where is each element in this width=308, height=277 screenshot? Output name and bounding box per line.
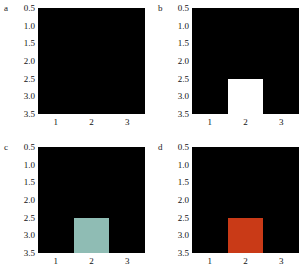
panel-letter-a: a: [4, 4, 8, 13]
panel-letter-b: b: [158, 4, 163, 13]
ytick-label: 3.5: [24, 110, 35, 119]
panel-d: d 0.51.01.52.02.53.03.5123: [154, 139, 308, 277]
ytick-label: 1.0: [178, 21, 189, 30]
xtick-label: 2: [89, 257, 94, 266]
ytick-label: 1.5: [24, 178, 35, 187]
ytick-label: 3.0: [178, 92, 189, 101]
ytick-label: 2.5: [24, 74, 35, 83]
panel-letter-d: d: [158, 143, 163, 152]
plot-area-d: [192, 147, 299, 253]
panel-a: a 0.51.01.52.02.53.03.5123: [0, 0, 154, 138]
ytick-label: 3.0: [24, 231, 35, 240]
xtick-label: 1: [208, 257, 213, 266]
highlight-cell-b: [228, 79, 264, 114]
ytick-label: 1.5: [178, 39, 189, 48]
panel-c: c 0.51.01.52.02.53.03.5123: [0, 139, 154, 277]
xtick-label: 1: [208, 118, 213, 127]
panel-b: b 0.51.01.52.02.53.03.5123: [154, 0, 308, 138]
xtick-label: 2: [243, 257, 248, 266]
ytick-label: 1.5: [178, 178, 189, 187]
ytick-label: 3.0: [24, 92, 35, 101]
ytick-label: 2.0: [24, 196, 35, 205]
xtick-label: 2: [89, 118, 94, 127]
xtick-label: 2: [243, 118, 248, 127]
axes-d: 0.51.01.52.02.53.03.5123: [192, 147, 299, 253]
plot-area-a: [38, 8, 145, 114]
ytick-label: 2.5: [24, 213, 35, 222]
xtick-label: 1: [54, 257, 59, 266]
ytick-label: 2.0: [178, 57, 189, 66]
ytick-label: 2.5: [178, 213, 189, 222]
ytick-label: 0.5: [178, 4, 189, 13]
panel-letter-c: c: [4, 143, 8, 152]
ytick-label: 3.5: [178, 249, 189, 258]
ytick-label: 1.5: [24, 39, 35, 48]
ytick-label: 1.0: [24, 21, 35, 30]
xtick-label: 1: [54, 118, 59, 127]
axes-b: 0.51.01.52.02.53.03.5123: [192, 8, 299, 114]
ytick-label: 0.5: [178, 143, 189, 152]
plot-area-c: [38, 147, 145, 253]
xtick-label: 3: [125, 257, 130, 266]
ytick-label: 3.5: [24, 249, 35, 258]
ytick-label: 3.0: [178, 231, 189, 240]
xtick-label: 3: [279, 118, 284, 127]
ytick-label: 2.5: [178, 74, 189, 83]
xtick-label: 3: [125, 118, 130, 127]
ytick-label: 3.5: [178, 110, 189, 119]
plot-area-b: [192, 8, 299, 114]
xtick-label: 3: [279, 257, 284, 266]
ytick-label: 2.0: [178, 196, 189, 205]
highlight-cell-d: [228, 218, 264, 253]
ytick-label: 0.5: [24, 4, 35, 13]
figure-canvas: a 0.51.01.52.02.53.03.5123 b 0.51.01.52.…: [0, 0, 308, 277]
ytick-label: 1.0: [178, 160, 189, 169]
highlight-cell-c: [74, 218, 110, 253]
axes-c: 0.51.01.52.02.53.03.5123: [38, 147, 145, 253]
ytick-label: 1.0: [24, 160, 35, 169]
ytick-label: 2.0: [24, 57, 35, 66]
axes-a: 0.51.01.52.02.53.03.5123: [38, 8, 145, 114]
ytick-label: 0.5: [24, 143, 35, 152]
